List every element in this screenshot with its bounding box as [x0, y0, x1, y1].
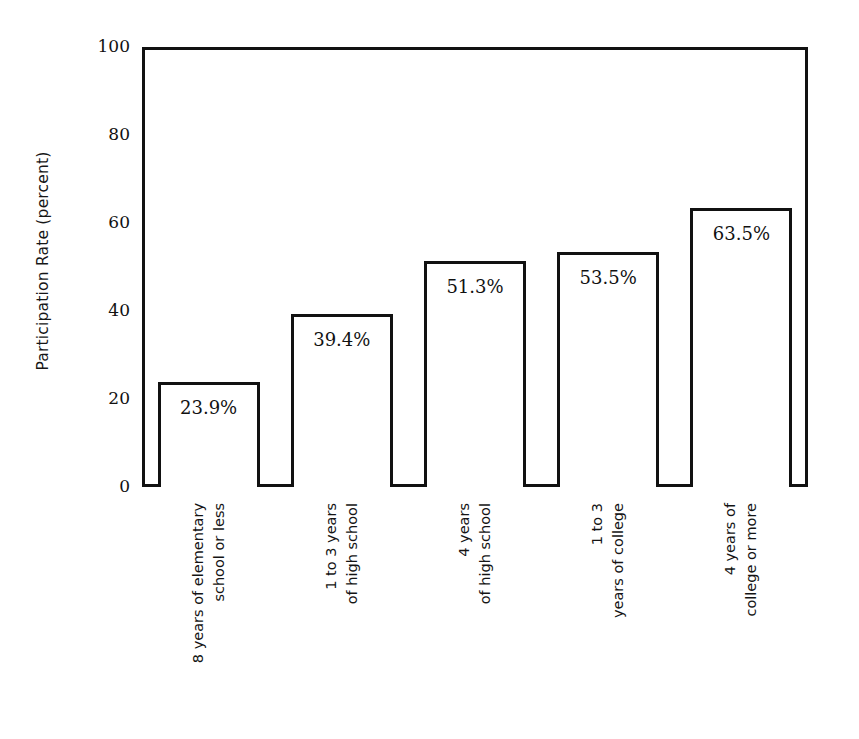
bar-chart-figure: Participation Rate (percent) 02040608010… [0, 0, 859, 739]
x-label-slot: 4 yearsof high school [408, 487, 541, 737]
y-tick-label: 0 [86, 478, 130, 495]
x-axis-label: 1 to 3 yearsof high school [321, 503, 363, 604]
bar[interactable]: 51.3% [424, 261, 526, 487]
x-axis-label-line: 4 years of [722, 503, 738, 575]
bar-value-label: 23.9% [161, 397, 257, 418]
x-axis-label-line: 1 to 3 years [323, 503, 339, 590]
y-tick-label: 60 [86, 214, 130, 231]
y-tick-label: 40 [86, 302, 130, 319]
x-axis-label: 4 yearsof high school [454, 503, 496, 604]
x-axis-label-line: college or more [741, 503, 762, 617]
x-axis-label: 8 years of elementaryschool or less [188, 503, 230, 663]
bar-value-label: 53.5% [560, 267, 656, 288]
bar[interactable]: 63.5% [690, 208, 792, 487]
y-tick-label: 100 [86, 38, 130, 55]
x-axis-label-line: years of college [608, 503, 629, 618]
x-axis-label-line: 1 to 3 [589, 503, 605, 545]
bar-value-label: 51.3% [427, 276, 523, 297]
x-label-slot: 1 to 3years of college [542, 487, 675, 737]
bar[interactable]: 23.9% [158, 382, 260, 487]
x-axis-label-line: of high school [475, 503, 496, 604]
x-label-slot: 1 to 3 yearsof high school [275, 487, 408, 737]
x-axis-label: 1 to 3years of college [587, 503, 629, 618]
bar-value-label: 63.5% [693, 223, 789, 244]
bar-value-label: 39.4% [294, 329, 390, 350]
x-axis-category-labels: 8 years of elementaryschool or less1 to … [142, 487, 808, 737]
x-axis-label: 4 years ofcollege or more [720, 503, 762, 617]
plot-area: 23.9%39.4%51.3%53.5%63.5% [142, 47, 808, 487]
y-tick-label: 20 [86, 390, 130, 407]
x-label-slot: 4 years ofcollege or more [675, 487, 808, 737]
y-axis-tick-labels: 020406080100 [75, 0, 130, 739]
x-axis-label-line: of high school [342, 503, 363, 604]
bar[interactable]: 39.4% [291, 314, 393, 487]
x-axis-label-line: 8 years of elementary [190, 503, 206, 663]
bar[interactable]: 53.5% [557, 252, 659, 487]
x-label-slot: 8 years of elementaryschool or less [142, 487, 275, 737]
x-axis-label-line: 4 years [456, 503, 472, 557]
x-axis-label-line: school or less [209, 503, 230, 663]
y-axis-title: Participation Rate (percent) [34, 131, 52, 391]
y-tick-label: 80 [86, 126, 130, 143]
